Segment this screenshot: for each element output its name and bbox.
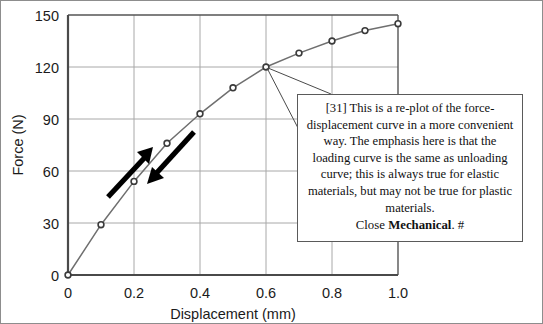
data-point [131, 179, 137, 185]
x-tick-label: 0.6 [256, 285, 276, 301]
x-tick-label: 0 [64, 285, 72, 301]
y-tick-label: 90 [43, 112, 59, 128]
callout-box[interactable]: [31] This is a re-plot of the force-disp… [297, 94, 523, 242]
x-tick-label: 0.4 [190, 285, 210, 301]
x-tick-label: 0.2 [124, 285, 144, 301]
data-point [230, 85, 236, 91]
data-point [197, 111, 203, 117]
y-tick-labels: 150 120 90 60 30 0 [35, 8, 59, 284]
data-point [65, 272, 71, 278]
x-tick-label: 1.0 [388, 285, 408, 301]
data-point [395, 21, 401, 27]
data-point [98, 222, 104, 228]
y-tick-label: 60 [43, 164, 59, 180]
data-point [296, 50, 302, 56]
callout-close-suffix: . # [451, 218, 464, 232]
y-tick-label: 150 [35, 8, 59, 24]
y-tick-label: 0 [51, 268, 59, 284]
data-point [164, 140, 170, 146]
x-axis-title: Displacement (mm) [170, 306, 296, 322]
callout-close-prefix: Close [356, 218, 388, 232]
data-point [362, 28, 368, 34]
y-tick-label: 120 [35, 60, 59, 76]
callout-close-bold: Mechanical [388, 218, 451, 232]
figure-container: 150 120 90 60 30 0 0 0.2 0.4 0.6 0.8 1.0… [0, 0, 543, 324]
y-tick-label: 30 [43, 216, 59, 232]
y-axis-title: Force (N) [10, 114, 26, 175]
callout-close-line: Close Mechanical. # [305, 217, 515, 234]
data-point [329, 38, 335, 44]
x-tick-label: 0.8 [322, 285, 342, 301]
callout-body-text: [31] This is a re-plot of the force-disp… [305, 100, 515, 216]
x-tick-labels: 0 0.2 0.4 0.6 0.8 1.0 [64, 285, 408, 301]
